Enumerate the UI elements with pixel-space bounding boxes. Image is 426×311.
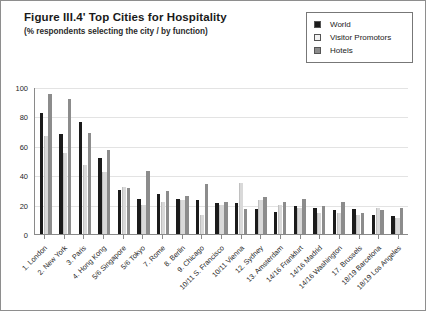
bar [356,215,360,234]
bar-group [309,88,329,234]
bar [146,171,149,234]
x-tick-mark [182,235,183,239]
bar [44,136,48,234]
legend-swatch-hotels [314,47,321,54]
bar [395,218,399,234]
legend-swatch-visitor-promotors [314,34,321,41]
figure-subtitle: (% respondents selecting the city / by f… [24,27,294,36]
bar [98,158,101,234]
x-tick-mark [260,235,261,239]
bar-group [329,88,349,234]
bar [200,215,204,234]
bar [333,210,336,234]
x-tick-mark [300,235,301,239]
x-tick-mark [123,235,124,239]
y-tick-label: 20 [20,201,28,210]
bar [278,205,282,234]
legend-label-world: World [330,20,351,29]
x-tick-mark [241,235,242,239]
x-tick-mark [221,235,222,239]
bar [263,197,266,234]
bar [313,208,316,234]
legend-item-world: World [314,18,403,31]
bar [205,184,208,234]
x-tick-mark [103,235,104,239]
legend-label-hotels: Hotels [330,46,353,55]
bar [176,199,179,234]
bar [83,165,87,234]
bar [317,213,321,234]
bar [161,202,165,234]
x-tick-mark [44,235,45,239]
bar [391,216,394,234]
bar [274,212,277,234]
bar [283,202,286,234]
bar [239,183,243,234]
bar-group [368,88,388,234]
bar [258,200,262,234]
bar [337,213,341,234]
y-tick-label: 60 [20,142,28,151]
bar-group [231,88,251,234]
bar [255,209,258,234]
bar [400,208,403,234]
x-tick-mark [83,235,84,239]
bar [180,200,184,234]
figure-header: Figure III.4' Top Cities for Hospitality… [24,11,294,36]
bar [302,199,305,234]
bar [118,190,121,234]
bar [376,208,380,234]
bar-group [173,88,193,234]
bar [372,215,375,234]
x-tick-mark [359,235,360,239]
bar-group [36,88,56,234]
chart-legend: World Visitor Promotors Hotels [306,12,413,63]
bar-group [95,88,115,234]
bar-group [270,88,290,234]
y-tick-label: 80 [20,113,28,122]
x-tick-mark [162,235,163,239]
bar [102,172,106,234]
bar-group [153,88,173,234]
bar [40,113,43,234]
bar [352,209,355,234]
x-tick-mark [319,235,320,239]
bar [361,213,364,234]
bar-group [134,88,154,234]
bar [122,187,126,234]
bar [224,202,227,234]
bar [157,194,160,234]
bar [63,153,67,234]
y-tick-label: 0 [24,231,28,240]
x-tick-mark [280,235,281,239]
bars-layer [35,88,408,234]
bar [88,133,91,234]
x-tick-mark [339,235,340,239]
y-axis: 020406080100 [1,81,31,241]
bar [59,134,62,234]
y-tick-label: 40 [20,172,28,181]
bar [107,150,110,234]
figure-container: Figure III.4' Top Cities for Hospitality… [0,0,426,311]
x-tick-mark [378,235,379,239]
bar [79,122,82,234]
bar [297,208,301,234]
bar [137,199,140,234]
bar [294,206,297,234]
bar-group [212,88,232,234]
bar [215,203,218,234]
bar-group [114,88,134,234]
legend-item-hotels: Hotels [314,44,403,57]
plot-area [34,88,408,235]
x-tick-mark [142,235,143,239]
bar [341,202,344,234]
bar-group [349,88,369,234]
bar [196,200,199,234]
bar-group [75,88,95,234]
legend-label-visitor-promotors: Visitor Promotors [330,33,391,42]
bar-group [56,88,76,234]
legend-item-visitor-promotors: Visitor Promotors [314,31,403,44]
x-tick-mark [398,235,399,239]
bar [185,196,188,234]
bar [48,94,51,234]
